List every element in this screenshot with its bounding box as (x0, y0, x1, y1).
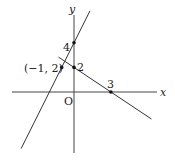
y-intercept-2 (72, 66, 76, 70)
label-neg1-2: (−1, 2) (24, 62, 63, 75)
x-axis-label: x (160, 86, 167, 99)
origin-label: O (64, 95, 73, 108)
y-axis-label: y (68, 3, 76, 16)
label-3: 3 (107, 78, 114, 91)
label-2: 2 (77, 61, 84, 74)
label-4: 4 (63, 41, 70, 54)
line-a (21, 11, 90, 149)
y-intercept-4 (72, 41, 76, 45)
line-b (59, 57, 152, 119)
coordinate-diagram: y x O 4 2 3 (−1, 2) (0, 0, 175, 164)
